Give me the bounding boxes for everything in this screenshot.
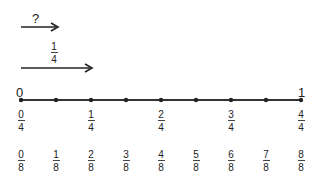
quarter-label: 04 bbox=[13, 109, 29, 133]
fraction-bar bbox=[263, 160, 270, 161]
fraction-bar bbox=[193, 160, 200, 161]
quarter-label: 24 bbox=[153, 109, 169, 133]
fraction-bar bbox=[51, 52, 58, 53]
eighth-label: 88 bbox=[293, 149, 309, 173]
quarter-label: 44 bbox=[293, 109, 309, 133]
eighth-label: 78 bbox=[258, 149, 274, 173]
fraction-bar bbox=[298, 120, 305, 121]
quarter-label: 34 bbox=[223, 109, 239, 133]
end-label: 1 bbox=[298, 86, 305, 99]
eighth-label: 08 bbox=[13, 149, 29, 173]
fraction-bar bbox=[88, 160, 95, 161]
fraction-bar bbox=[18, 120, 25, 121]
unknown-arrow bbox=[21, 23, 58, 31]
fraction-bar bbox=[228, 120, 235, 121]
number-line bbox=[19, 98, 303, 102]
quarter-arrow-label: 1 4 bbox=[46, 41, 62, 65]
eighth-label: 28 bbox=[83, 149, 99, 173]
fraction-bar bbox=[88, 120, 95, 121]
eighth-label: 18 bbox=[48, 149, 64, 173]
fraction-bar bbox=[298, 160, 305, 161]
fraction-bar bbox=[18, 160, 25, 161]
fraction-bar bbox=[228, 160, 235, 161]
eighth-label: 68 bbox=[223, 149, 239, 173]
fraction-bar bbox=[123, 160, 130, 161]
quarter-label: 14 bbox=[83, 109, 99, 133]
eighth-label: 58 bbox=[188, 149, 204, 173]
eighth-label: 38 bbox=[118, 149, 134, 173]
quarter-arrow bbox=[21, 64, 92, 72]
eighth-label: 48 bbox=[153, 149, 169, 173]
start-label: 0 bbox=[16, 86, 23, 99]
fraction-bar bbox=[158, 120, 165, 121]
fraction-bar bbox=[158, 160, 165, 161]
unknown-arrow-label: ? bbox=[32, 11, 39, 26]
fraction-bar bbox=[53, 160, 60, 161]
